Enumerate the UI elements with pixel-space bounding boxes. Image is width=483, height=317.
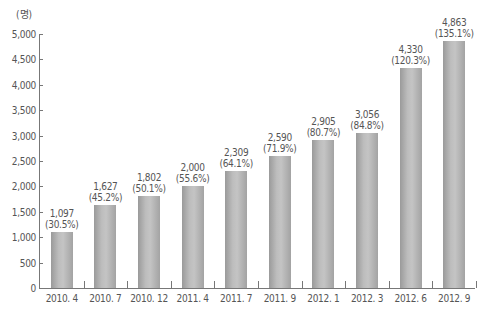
bar xyxy=(225,171,247,288)
y-tick-mark xyxy=(39,186,43,187)
bar xyxy=(400,68,422,288)
y-tick-mark xyxy=(39,237,43,238)
x-tick-mark xyxy=(389,281,390,288)
bar xyxy=(94,205,116,288)
percent-text: (55.6%) xyxy=(163,173,223,184)
x-tick-mark xyxy=(127,281,128,288)
x-tick-mark xyxy=(476,281,477,288)
y-tick-mark xyxy=(39,136,43,137)
bar xyxy=(138,196,160,288)
bar-chart: (명) 0 500 1,000 1,500 2,000 2,500 3,000 … xyxy=(0,0,483,317)
bar xyxy=(182,186,204,288)
bar-value-label: 1,097(30.5%) xyxy=(32,208,92,230)
bar xyxy=(356,133,378,288)
x-tick-mark xyxy=(258,281,259,288)
bar xyxy=(51,232,73,288)
percent-text: (135.1%) xyxy=(424,28,483,39)
y-tick-mark xyxy=(39,85,43,86)
y-tick-mark xyxy=(39,263,43,264)
bar-value-label: 4,330(120.3%) xyxy=(381,44,441,66)
x-tick-mark xyxy=(345,281,346,288)
value-text: 1,097 xyxy=(32,208,92,219)
y-axis-unit-label: (명) xyxy=(16,6,32,21)
y-tick-label: 5,000 xyxy=(12,29,36,40)
x-tick-mark xyxy=(432,281,433,288)
percent-text: (50.1%) xyxy=(119,183,179,194)
percent-text: (84.8%) xyxy=(337,120,397,131)
y-tick-label: 1,000 xyxy=(12,232,36,243)
percent-text: (64.1%) xyxy=(206,158,266,169)
value-text: 4,330 xyxy=(381,44,441,55)
bar xyxy=(312,140,334,288)
bar-value-label: 3,056(84.8%) xyxy=(337,109,397,131)
percent-text: (30.5%) xyxy=(32,219,92,230)
y-tick-label: 0 xyxy=(31,283,36,294)
x-tick-mark xyxy=(84,281,85,288)
value-text: 3,056 xyxy=(337,109,397,120)
x-tick-mark xyxy=(302,281,303,288)
y-tick-label: 4,000 xyxy=(12,80,36,91)
y-tick-label: 4,500 xyxy=(12,54,36,65)
y-tick-mark xyxy=(39,161,43,162)
percent-text: (120.3%) xyxy=(381,55,441,66)
x-axis-line xyxy=(39,288,475,289)
y-tick-label: 3,500 xyxy=(12,105,36,116)
value-text: 4,863 xyxy=(424,17,483,28)
bar xyxy=(443,41,465,288)
bar-value-label: 4,863(135.1%) xyxy=(424,17,483,39)
x-tick-mark xyxy=(214,281,215,288)
bar xyxy=(269,156,291,288)
x-tick-mark xyxy=(171,281,172,288)
y-tick-label: 2,500 xyxy=(12,156,36,167)
y-tick-label: 3,000 xyxy=(12,131,36,142)
y-tick-label: 2,000 xyxy=(12,181,36,192)
y-tick-mark xyxy=(39,34,43,35)
percent-text: (71.9%) xyxy=(250,143,310,154)
x-tick-label: 2012. 9 xyxy=(424,293,483,304)
y-tick-label: 500 xyxy=(20,258,36,269)
y-tick-mark xyxy=(39,110,43,111)
y-tick-mark xyxy=(39,59,43,60)
